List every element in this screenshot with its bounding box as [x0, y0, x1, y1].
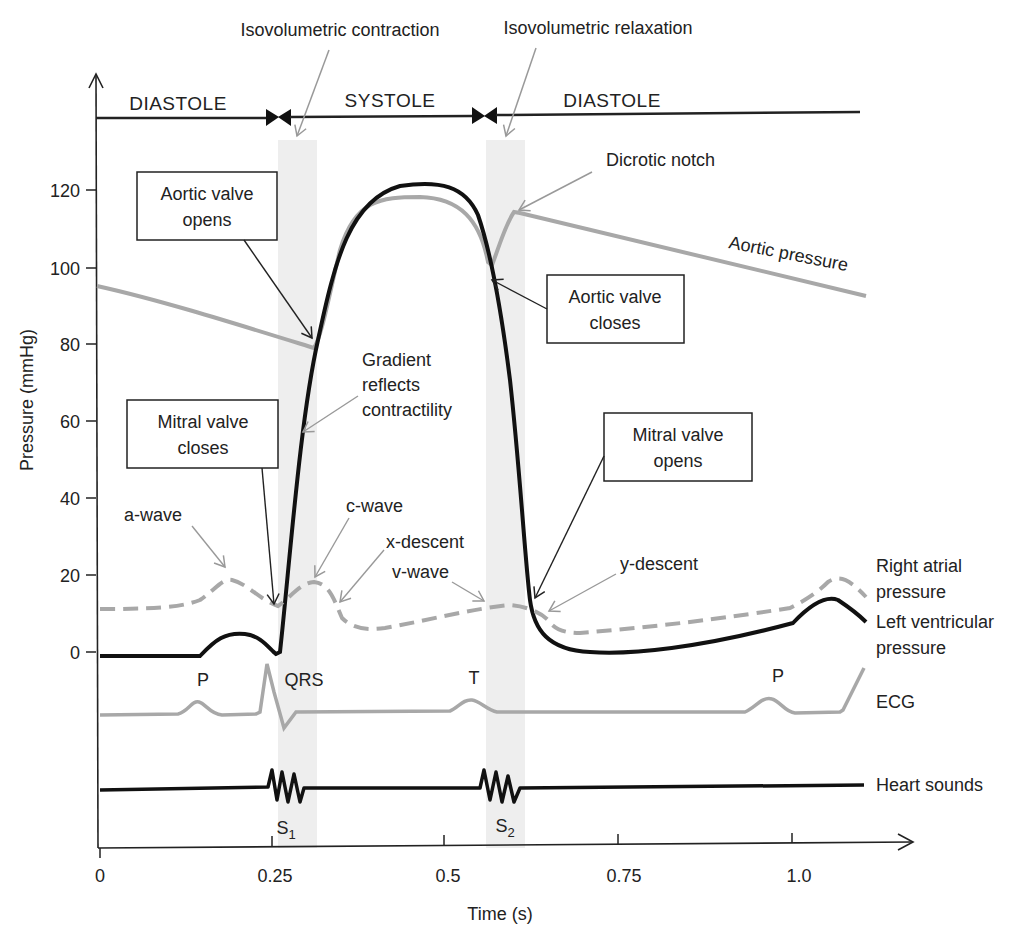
ecg-p2-label: P	[772, 666, 784, 686]
y-tick-120: 120	[50, 181, 80, 201]
svg-text:opens: opens	[653, 451, 702, 471]
y-descent-arrow	[549, 574, 616, 611]
y-axis: 0 20 40 60 80 100 120 Pressure (mmHg)	[17, 74, 103, 848]
ecg-qrs-label: QRS	[284, 670, 323, 690]
y-axis-label: Pressure (mmHg)	[17, 329, 37, 471]
svg-text:opens: opens	[182, 210, 231, 230]
svg-text:Aortic valve: Aortic valve	[160, 184, 253, 204]
y-tick-100: 100	[50, 259, 80, 279]
y-descent-label: y-descent	[620, 554, 698, 574]
ecg-label: ECG	[876, 692, 915, 712]
dicrotic-notch-arrow	[519, 172, 592, 210]
isovolumetric-relaxation-label: Isovolumetric relaxation	[503, 18, 692, 38]
a-wave-arrow	[192, 526, 225, 567]
isovolumetric-contraction-arrow	[297, 50, 329, 136]
x-tick-0: 0	[95, 866, 105, 886]
x-tick-1: 1.0	[786, 866, 811, 886]
v-wave-label: v-wave	[392, 562, 449, 582]
y-tick-0: 0	[70, 643, 80, 663]
svg-text:closes: closes	[589, 313, 640, 333]
lv-label-2: pressure	[876, 638, 946, 658]
svg-text:closes: closes	[177, 438, 228, 458]
x-tick-05: 0.5	[435, 866, 460, 886]
wiggers-diagram: 0 20 40 60 80 100 120 Pressure (mmHg) 0 …	[0, 0, 1024, 936]
a-wave-label: a-wave	[124, 505, 182, 525]
svg-text:Mitral valve: Mitral valve	[632, 425, 723, 445]
phase-diastole-2: DIASTOLE	[563, 90, 661, 111]
phase-diastole-1: DIASTOLE	[129, 93, 227, 114]
y-tick-40: 40	[60, 489, 80, 509]
ecg-t-label: T	[469, 668, 480, 688]
y-tick-80: 80	[60, 335, 80, 355]
x-descent-label: x-descent	[386, 532, 464, 552]
y-tick-60: 60	[60, 412, 80, 432]
x-descent-arrow	[340, 550, 384, 602]
x-tick-025: 0.25	[257, 866, 292, 886]
isovolumetric-contraction-label: Isovolumetric contraction	[240, 20, 439, 40]
isovolumetric-relaxation-arrow	[506, 48, 536, 136]
x-tick-075: 0.75	[606, 866, 641, 886]
ecg-p-label: P	[197, 670, 209, 690]
right-atrial-pressure-trace	[100, 578, 866, 633]
heart-sounds-label: Heart sounds	[876, 775, 983, 795]
gradient-label-2: reflects	[362, 375, 420, 395]
x-axis-label: Time (s)	[467, 904, 532, 924]
gradient-label-3: contractility	[362, 400, 452, 420]
ecg-trace	[100, 664, 864, 728]
svg-text:Mitral valve: Mitral valve	[157, 412, 248, 432]
dicrotic-notch-label: Dicrotic notch	[606, 150, 715, 170]
c-wave-arrow	[315, 518, 349, 577]
v-wave-arrow	[452, 582, 484, 601]
y-tick-20: 20	[60, 566, 80, 586]
right-atrial-label-1: Right atrial	[876, 556, 962, 576]
lv-label-1: Left ventricular	[876, 612, 994, 632]
gradient-label-1: Gradient	[362, 350, 431, 370]
phase-bar: DIASTOLE SYSTOLE DIASTOLE	[96, 90, 860, 126]
heart-sounds-trace	[100, 770, 864, 802]
mitral-valve-closes-callout: Mitral valve closes	[127, 400, 278, 604]
right-atrial-label-2: pressure	[876, 582, 946, 602]
svg-text:Aortic valve: Aortic valve	[568, 287, 661, 307]
c-wave-label: c-wave	[346, 496, 403, 516]
phase-systole: SYSTOLE	[345, 90, 436, 111]
